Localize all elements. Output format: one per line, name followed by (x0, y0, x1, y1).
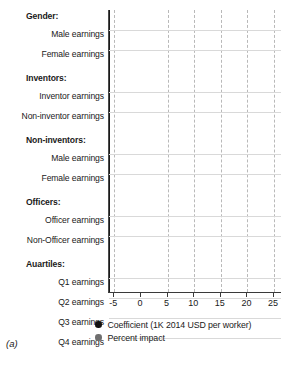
row-separator (109, 112, 281, 113)
zero-reference-line (109, 10, 110, 292)
row-separator (109, 30, 281, 31)
row-label: Female earnings (41, 49, 104, 59)
axis-tick-label: 0 (137, 298, 142, 308)
row-separator (109, 50, 281, 51)
axis-tick-label: 10 (188, 298, 198, 308)
row-separator (109, 278, 281, 279)
axis-tick (140, 293, 141, 297)
gridline (114, 10, 115, 292)
row-separator (109, 154, 281, 155)
legend-item-coefficient: Coefficient (1K 2014 USD per worker) (95, 318, 251, 331)
axis-tick-label: 20 (241, 298, 251, 308)
axis-tick-label: 25 (268, 298, 278, 308)
gridline (168, 10, 169, 292)
row-separator (109, 174, 281, 175)
axis-tick (246, 293, 247, 297)
row-label: Non-inventor earnings (22, 111, 104, 121)
group-heading: Officers: (26, 197, 60, 207)
axis-tick (167, 293, 168, 297)
row-label: Inventor earnings (39, 91, 104, 101)
legend-label: Coefficient (1K 2014 USD per worker) (108, 320, 252, 330)
plot-area (108, 10, 281, 292)
group-heading: Auartiles: (26, 259, 65, 269)
legend-marker-icon (95, 334, 102, 341)
axis-tick (273, 293, 274, 297)
axis-tick-label: -5 (109, 298, 117, 308)
panel-letter: (a) (6, 338, 18, 349)
row-label: Non-Officer earnings (27, 235, 104, 245)
row-separator (109, 92, 281, 93)
legend: Coefficient (1K 2014 USD per worker)Perc… (95, 318, 251, 344)
group-heading: Non-inventors: (26, 135, 86, 145)
legend-item-percent: Percent impact (95, 331, 251, 344)
gridline (274, 10, 275, 292)
group-heading: Gender: (26, 11, 58, 21)
axis-tick (193, 293, 194, 297)
axis-tick (220, 293, 221, 297)
gridline (221, 10, 222, 292)
row-label: Officer earnings (45, 215, 104, 225)
gridline (194, 10, 195, 292)
row-label: Q2 earnings (58, 297, 104, 307)
axis-tick-label: 15 (215, 298, 225, 308)
legend-marker-icon (95, 321, 102, 328)
group-heading: Inventors: (26, 73, 67, 83)
row-label: Female earnings (41, 173, 104, 183)
legend-label: Percent impact (108, 333, 165, 343)
x-axis: -50510152025 (108, 292, 281, 295)
row-separator (109, 216, 281, 217)
gridline (247, 10, 248, 292)
row-label: Male earnings (51, 153, 104, 163)
axis-tick-label: 5 (164, 298, 169, 308)
row-label-column: Gender:Male earningsFemale earningsInven… (0, 0, 108, 292)
row-label: Q1 earnings (58, 277, 104, 287)
row-separator (109, 236, 281, 237)
axis-tick (113, 293, 114, 297)
figure-panel-a: Gender:Male earningsFemale earningsInven… (0, 0, 281, 366)
row-label: Male earnings (51, 29, 104, 39)
